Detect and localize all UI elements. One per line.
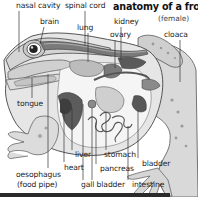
label-bladder: bladder [142, 160, 170, 168]
label-kidney: kidney [114, 18, 139, 26]
bottom-border [0, 193, 170, 197]
label-intestine: intestine [132, 181, 164, 189]
label-gall-bladder: gall bladder [81, 181, 125, 189]
label-lung: lung [77, 24, 93, 32]
label-stomach: stomach [104, 151, 136, 159]
label-tongue: tongue [17, 100, 43, 108]
frog-anatomy-diagram: anatomy of a frog (female) nasal cavity … [0, 0, 198, 197]
gall-bladder-shape [88, 100, 96, 108]
label-liver: liver [75, 151, 91, 159]
label-pancreas: pancreas [100, 165, 134, 173]
label-heart: heart [64, 164, 84, 172]
label-spinal-cord: spinal cord [65, 2, 105, 10]
label-food-pipe: (food pipe) [17, 181, 57, 189]
diagram-title: anatomy of a frog [113, 1, 198, 12]
label-cloaca: cloaca [164, 31, 188, 39]
pupil [29, 45, 37, 53]
label-oesophagus: oesophagus [16, 171, 61, 179]
label-brain: brain [40, 18, 59, 26]
label-ovary: ovary [110, 31, 131, 39]
label-nasal-cavity: nasal cavity [16, 2, 60, 10]
diagram-subtitle: (female) [158, 14, 189, 23]
